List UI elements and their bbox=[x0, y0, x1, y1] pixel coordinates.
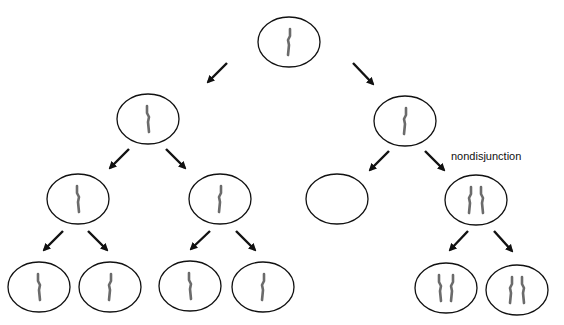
arrow-icon bbox=[166, 149, 185, 168]
arrow-icon bbox=[208, 63, 227, 82]
cell-membrane bbox=[486, 265, 548, 315]
arrow-icon bbox=[425, 151, 444, 170]
cell-l2-c bbox=[306, 174, 368, 224]
chromosome-icon bbox=[288, 29, 290, 55]
chromosome-icon bbox=[38, 274, 40, 300]
arrow-icon bbox=[370, 151, 389, 170]
arrow-icon bbox=[44, 231, 63, 250]
arrow-icon bbox=[494, 231, 512, 251]
arrows bbox=[44, 63, 512, 251]
arrow-icon bbox=[191, 231, 210, 249]
chromosome-icon bbox=[481, 187, 483, 213]
cell-l3-e bbox=[415, 263, 477, 313]
arrow-icon bbox=[353, 63, 373, 84]
chromosome-icon bbox=[522, 277, 524, 303]
chromosome-icon bbox=[451, 275, 453, 301]
arrow-icon bbox=[450, 231, 468, 250]
chromosome-icon bbox=[469, 187, 471, 213]
chromosome-icon bbox=[404, 108, 406, 134]
chromosome-icon bbox=[219, 186, 221, 212]
chromosome-icon bbox=[147, 106, 149, 132]
chromosome-icon bbox=[77, 186, 79, 212]
cell-l1-left bbox=[117, 94, 179, 144]
cell-l3-a bbox=[8, 262, 70, 312]
cell-membrane bbox=[445, 175, 507, 225]
chromosome-icon bbox=[510, 277, 512, 303]
cell-l3-d bbox=[232, 262, 294, 312]
arrow-icon bbox=[236, 231, 255, 250]
chromosome-icon bbox=[439, 275, 441, 301]
arrow-icon bbox=[110, 149, 129, 168]
chromosome-icon bbox=[262, 274, 264, 300]
cell-l2-d bbox=[445, 175, 507, 225]
cell-membrane bbox=[306, 174, 368, 224]
cells bbox=[8, 17, 548, 315]
cell-l2-a bbox=[47, 174, 109, 224]
meiosis-diagram bbox=[0, 0, 564, 325]
cell-membrane bbox=[415, 263, 477, 313]
cell-l1-right bbox=[374, 96, 436, 146]
cell-root bbox=[258, 17, 320, 67]
cell-l2-b bbox=[189, 174, 251, 224]
cell-l3-f bbox=[486, 265, 548, 315]
cell-l3-c bbox=[159, 261, 221, 311]
nondisjunction-label: nondisjunction bbox=[451, 150, 521, 162]
arrow-icon bbox=[88, 231, 107, 250]
cell-l3-b bbox=[79, 262, 141, 312]
chromosome-icon bbox=[109, 274, 111, 300]
chromosome-icon bbox=[189, 273, 191, 299]
